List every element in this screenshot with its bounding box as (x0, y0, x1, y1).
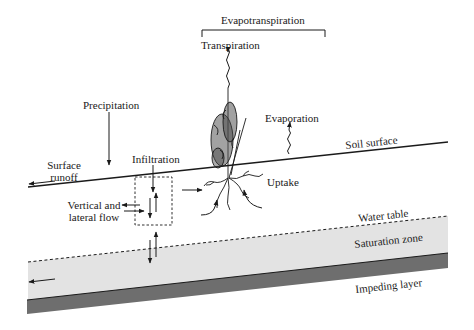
vertical-lateral-flow-label-line1: Vertical and (66, 199, 122, 211)
uptake-arrow-icon-2 (201, 200, 217, 215)
vertical-lateral-flow-label: Vertical and lateral flow (66, 199, 122, 223)
uptake-arrow-icon (244, 190, 262, 208)
precipitation-label: Precipitation (83, 99, 139, 111)
transpiration-arrow-icon (227, 48, 230, 88)
surface-runoff-label: Surface runoff (44, 159, 84, 183)
surface-runoff-label-line2: runoff (44, 171, 84, 183)
evaporation-arrow-icon (288, 122, 291, 154)
infiltration-label: Infiltration (132, 153, 180, 165)
roots-icon (204, 171, 263, 210)
uptake-label: Uptake (267, 176, 299, 188)
surface-runoff-label-line1: Surface (44, 159, 84, 171)
evaporation-label: Evaporation (265, 112, 319, 124)
transpiration-label: Transpiration (201, 39, 260, 51)
evapotranspiration-label: Evapotranspiration (221, 14, 305, 26)
evapotranspiration-bracket (202, 30, 325, 37)
vertical-lateral-flow-label-line2: lateral flow (66, 211, 122, 223)
soil-surface-line (28, 142, 448, 187)
